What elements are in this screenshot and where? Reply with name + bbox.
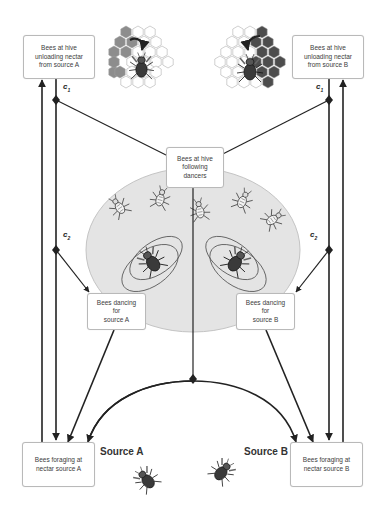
- box-following-dancers: Bees at hivefollowingdancers: [166, 147, 224, 188]
- honeycomb-bee-icon-left: [109, 26, 173, 88]
- box-foraging-source-a: Bees foraging atnectar source A: [22, 442, 95, 487]
- box-unloading-source-b: Bees at hiveunloading nectarfrom source …: [292, 35, 364, 79]
- c1-label-left: c1: [63, 82, 70, 93]
- forager-bee-icon: [129, 453, 240, 495]
- honeycomb-bee-icon-right: [215, 26, 285, 88]
- source-b-label: Source B: [244, 446, 288, 457]
- box-dancing-source-a: Bees dancing forsource A: [87, 293, 146, 330]
- c2-label-right: c2: [310, 230, 317, 241]
- c2-label-left: c2: [63, 230, 70, 241]
- source-a-label: Source A: [100, 446, 144, 457]
- box-unloading-source-a: Bees at hiveunloading nectarfrom source …: [23, 35, 95, 79]
- box-foraging-source-b: Bees foraging atnectar source B: [290, 442, 363, 487]
- c1-label-right: c1: [316, 82, 323, 93]
- box-dancing-source-b: Bees dancing forsource B: [236, 293, 295, 330]
